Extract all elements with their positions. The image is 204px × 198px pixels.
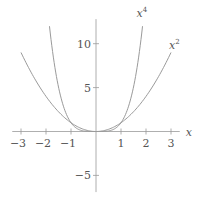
x-tick-label: −2 xyxy=(35,137,51,150)
x-tick-label: −3 xyxy=(10,137,26,150)
curve-label-x2: x2 xyxy=(169,38,180,52)
curve-label-x4: x4 xyxy=(137,6,148,20)
exponent: 2 xyxy=(175,38,179,46)
x-tick-label: 1 xyxy=(118,137,125,150)
y-tick-label: −5 xyxy=(75,169,91,182)
x-tick-label: 2 xyxy=(143,137,150,150)
y-tick-label: 10 xyxy=(77,38,91,51)
y-tick-label: 5 xyxy=(84,82,91,95)
function-plot: −3−2−1123105−5xx2x4 xyxy=(0,0,204,198)
x-axis-label: x xyxy=(186,126,193,139)
x-tick-label: −1 xyxy=(60,137,76,150)
exponent: 4 xyxy=(143,6,148,14)
labels: −3−2−1123105−5xx2x4 xyxy=(10,6,193,182)
axes xyxy=(12,19,180,192)
x-tick-label: 3 xyxy=(168,137,175,150)
